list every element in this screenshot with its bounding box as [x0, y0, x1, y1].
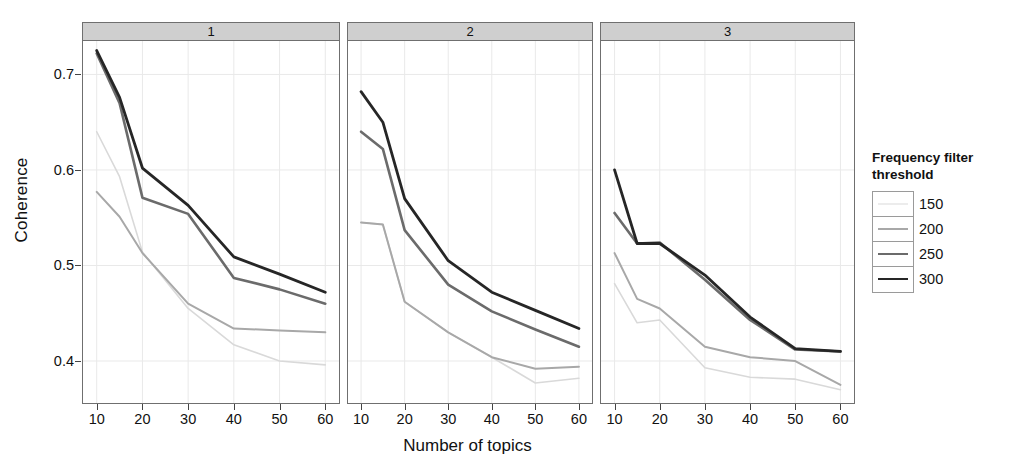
series-line-200	[361, 223, 579, 369]
x-tick-label: 10	[606, 411, 622, 427]
legend-row[interactable]: 250	[873, 242, 913, 267]
x-tick-mark	[142, 404, 143, 410]
x-tick-label: 10	[353, 411, 369, 427]
x-tick-mark	[448, 404, 449, 410]
legend-items: 150200250300	[872, 191, 914, 293]
y-axis-tick-labels: 0.40.50.60.7	[26, 0, 74, 470]
x-tick-mark	[840, 404, 841, 410]
x-tick-mark	[188, 404, 189, 410]
x-tick-mark	[280, 404, 281, 410]
y-tick-mark	[75, 170, 81, 171]
y-tick-label: 0.4	[32, 353, 74, 369]
facet-plot-area	[82, 41, 340, 404]
x-tick-mark	[492, 404, 493, 410]
x-tick-label: 60	[317, 411, 333, 427]
series-line-300	[97, 51, 326, 293]
y-tick-mark	[75, 361, 81, 362]
x-tick-label: 20	[397, 411, 413, 427]
x-tick-label: 50	[787, 411, 803, 427]
legend-row[interactable]: 300	[873, 267, 913, 292]
x-tick-mark	[234, 404, 235, 410]
legend-row[interactable]: 200	[873, 217, 913, 242]
x-tick-label: 50	[527, 411, 543, 427]
y-tick-label: 0.6	[32, 162, 74, 178]
series-line-200	[615, 253, 841, 385]
series-line-250	[615, 213, 841, 352]
y-tick-mark	[75, 74, 81, 75]
series-line-300	[361, 92, 579, 329]
legend-label: 300	[919, 271, 943, 287]
facet-plot-area	[347, 41, 593, 404]
legend-swatch-150	[878, 203, 908, 204]
legend-label: 200	[919, 221, 943, 237]
legend-title: Frequency filter threshold	[872, 150, 992, 184]
y-tick-mark	[75, 265, 81, 266]
x-tick-mark	[750, 404, 751, 410]
facet-plot-area	[600, 41, 855, 404]
x-tick-label: 60	[832, 411, 848, 427]
x-tick-mark	[660, 404, 661, 410]
legend-swatch-250	[878, 253, 908, 255]
x-tick-label: 40	[226, 411, 242, 427]
series-line-150	[97, 132, 326, 365]
legend-swatch-200	[878, 228, 908, 230]
y-tick-label: 0.7	[32, 66, 74, 82]
x-axis-title: Number of topics	[80, 436, 855, 456]
x-tick-label: 50	[271, 411, 287, 427]
x-tick-label: 20	[652, 411, 668, 427]
chart-figure: Coherence 0.40.50.60.7 123 1020304050601…	[0, 0, 1012, 470]
x-tick-label: 30	[440, 411, 456, 427]
x-tick-mark	[705, 404, 706, 410]
x-tick-mark	[405, 404, 406, 410]
x-tick-label: 30	[697, 411, 713, 427]
x-tick-label: 40	[742, 411, 758, 427]
legend: Frequency filter threshold 150200250300	[872, 150, 1002, 293]
facet-strip-label: 1	[82, 22, 340, 41]
x-tick-mark	[795, 404, 796, 410]
x-tick-mark	[535, 404, 536, 410]
facet-series-canvas	[83, 41, 340, 404]
facet-series-canvas	[601, 41, 855, 404]
y-tick-label: 0.5	[32, 257, 74, 273]
facet-series-canvas	[348, 41, 593, 404]
series-line-150	[361, 223, 579, 383]
facet-strip-label: 3	[600, 22, 855, 41]
facet-strip-label: 2	[347, 22, 593, 41]
legend-label: 250	[919, 246, 943, 262]
series-line-300	[615, 170, 841, 351]
legend-row[interactable]: 150	[873, 192, 913, 217]
x-tick-mark	[579, 404, 580, 410]
x-tick-mark	[361, 404, 362, 410]
series-line-250	[97, 53, 326, 303]
x-tick-label: 60	[571, 411, 587, 427]
x-tick-mark	[97, 404, 98, 410]
x-tick-mark	[615, 404, 616, 410]
x-tick-label: 40	[484, 411, 500, 427]
x-tick-mark	[325, 404, 326, 410]
legend-label: 150	[919, 196, 943, 212]
x-tick-label: 20	[134, 411, 150, 427]
x-tick-label: 30	[180, 411, 196, 427]
legend-swatch-300	[878, 278, 908, 280]
x-tick-label: 10	[89, 411, 105, 427]
